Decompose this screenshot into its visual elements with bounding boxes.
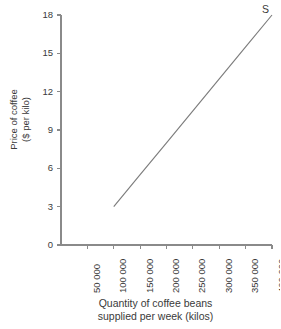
series-lines	[114, 15, 272, 207]
axes-group	[61, 15, 272, 245]
y-tick-label: 15	[27, 48, 53, 58]
y-tick-label: 3	[27, 202, 53, 212]
y-axis-title: Price of coffee ($ per kilo)	[8, 65, 31, 175]
x-tick-label: 50 000	[92, 264, 102, 293]
y-tick-label: 6	[27, 163, 53, 173]
x-tick-label: 300 000	[224, 259, 234, 293]
y-tick-label: 9	[27, 125, 53, 135]
x-tick-marks	[87, 245, 272, 249]
supply-curve-label: S	[262, 3, 269, 15]
y-axis-title-line-1: Price of coffee	[8, 65, 20, 175]
x-tick-label: 200 000	[171, 259, 181, 293]
supply-curve-chart: 0369121518 50 000100 000150 000200 00025…	[0, 0, 280, 329]
x-axis-title-line-2: supplied per week (kilos)	[48, 310, 263, 323]
supply-curve-line	[114, 15, 272, 207]
x-axis-title: Quantity of coffee beans supplied per we…	[48, 297, 263, 323]
x-axis-title-line-1: Quantity of coffee beans	[48, 297, 263, 310]
x-tick-label: 150 000	[145, 259, 155, 293]
y-tick-label: 18	[27, 10, 53, 20]
y-axis-title-line-2: ($ per kilo)	[19, 65, 31, 175]
x-tick-label: 100 000	[118, 259, 128, 293]
y-tick-marks	[57, 15, 61, 245]
x-tick-label: 250 000	[197, 259, 207, 293]
x-tick-label: 350 000	[250, 259, 260, 293]
y-tick-label: 0	[27, 240, 53, 250]
y-tick-label: 12	[27, 87, 53, 97]
x-tick-label: 400 000	[277, 259, 281, 293]
